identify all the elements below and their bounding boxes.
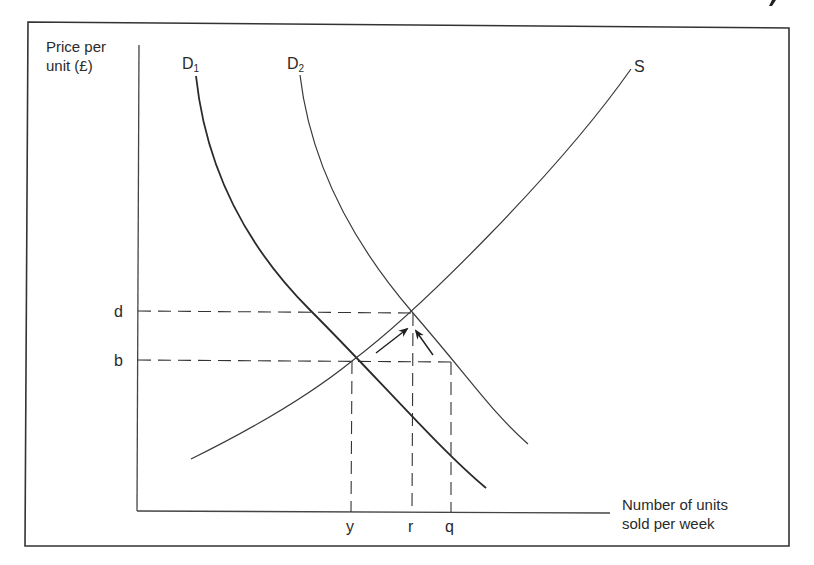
quantity-tick-q: q bbox=[445, 518, 454, 535]
x-axis bbox=[137, 511, 610, 513]
y-axis-label-line1: Price per bbox=[46, 38, 106, 55]
curve-label-d1-letter: D bbox=[182, 55, 194, 72]
y-axis-label-line2: unit (£) bbox=[46, 57, 93, 74]
guide-quantity-y bbox=[351, 361, 352, 512]
guide-lines bbox=[138, 311, 451, 512]
x-axis-label-line1: Number of units bbox=[622, 496, 728, 513]
price-tick-d: d bbox=[114, 303, 123, 320]
y-axis bbox=[137, 45, 139, 511]
quantity-tick-r: r bbox=[408, 518, 414, 535]
guide-quantity-r bbox=[412, 313, 413, 512]
guide-price-d bbox=[138, 311, 413, 313]
cropped-heading-fragment bbox=[769, 0, 776, 6]
supply-curve-s bbox=[191, 69, 631, 459]
supply-demand-diagram: Price per unit (£) Number of units sold … bbox=[0, 0, 814, 565]
curve-label-d2: D2 bbox=[287, 55, 305, 74]
x-axis-label-line2: sold per week bbox=[622, 515, 715, 532]
guide-price-b bbox=[138, 360, 451, 362]
curve-label-s: S bbox=[634, 58, 645, 75]
arrow-along-supply-icon bbox=[376, 329, 407, 353]
price-tick-b: b bbox=[114, 352, 123, 369]
curve-label-d1-subscript: 1 bbox=[194, 63, 200, 74]
figure-frame bbox=[25, 22, 789, 546]
demand-curve-d2 bbox=[300, 75, 528, 444]
arrow-along-demand-icon bbox=[416, 331, 433, 355]
quantity-tick-y: y bbox=[346, 518, 354, 535]
curve-label-d2-subscript: 2 bbox=[299, 63, 305, 74]
curve-label-d1: D1 bbox=[182, 55, 200, 74]
curve-label-d2-letter: D bbox=[287, 55, 299, 72]
